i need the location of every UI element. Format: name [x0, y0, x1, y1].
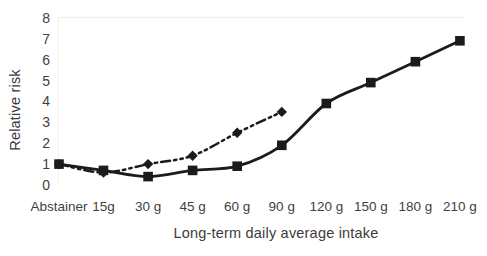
y-tick-label-2: 2 [42, 135, 50, 151]
plot-area [0, 0, 487, 256]
marker-square-120 g [322, 99, 332, 109]
marker-square-60 g [232, 161, 242, 171]
x-tick-label-150g: 150 g [354, 199, 388, 214]
line-chart: Relative risk 876543210 Abstainer15g30 g… [0, 0, 487, 256]
x-tick-label-Abstainer: Abstainer [30, 199, 87, 214]
x-tick-label-210g: 210 g [443, 199, 477, 214]
marker-diamond-60 g [232, 128, 242, 138]
y-tick-label-4: 4 [42, 93, 50, 109]
x-axis-title: Long-term daily average intake [173, 225, 378, 241]
x-tick-label-120g: 120 g [309, 199, 343, 214]
series-line-solid [59, 41, 460, 177]
x-tick-label-180g: 180 g [398, 199, 432, 214]
y-tick-label-0: 0 [42, 177, 50, 193]
y-tick-label-1: 1 [42, 156, 50, 172]
x-tick-label-45g: 45 g [180, 199, 206, 214]
marker-square-45 g [188, 166, 198, 176]
x-tick-label-90g: 90 g [269, 199, 295, 214]
marker-square-150 g [366, 78, 376, 88]
marker-diamond-90 g [277, 107, 287, 117]
y-tick-label-7: 7 [42, 31, 50, 47]
marker-diamond-45 g [187, 151, 197, 161]
x-tick-label-30g: 30 g [135, 199, 161, 214]
x-tick-label-15g: 15g [92, 199, 115, 214]
y-tick-label-6: 6 [42, 52, 50, 68]
y-tick-label-3: 3 [42, 114, 50, 130]
x-tick-label-60g: 60 g [224, 199, 250, 214]
y-tick-label-5: 5 [42, 73, 50, 89]
marker-square-210 g [455, 36, 465, 46]
marker-diamond-30 g [143, 159, 153, 169]
marker-square-90 g [277, 141, 287, 151]
marker-square-30 g [143, 172, 153, 182]
y-tick-label-8: 8 [42, 10, 50, 26]
marker-square-180 g [411, 57, 421, 67]
